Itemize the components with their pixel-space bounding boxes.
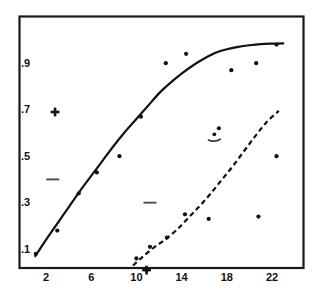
data-point	[254, 61, 258, 65]
data-point	[183, 212, 187, 216]
y-tick-label: .7	[21, 103, 30, 115]
data-point	[148, 245, 152, 249]
y-tick-label: .3	[21, 196, 30, 208]
chart-canvas: .1.3.5.7.9 2610141822	[0, 0, 321, 296]
x-tick-label: 6	[88, 271, 94, 283]
data-point	[139, 115, 143, 119]
scatter-plot-figure: .1.3.5.7.9 2610141822	[0, 0, 321, 296]
data-point	[34, 252, 38, 256]
data-point	[217, 126, 221, 130]
data-point	[184, 52, 188, 56]
data-point	[207, 217, 211, 221]
data-point	[77, 191, 81, 195]
x-tick-label: 18	[221, 271, 233, 283]
data-point	[117, 154, 121, 158]
data-point	[164, 61, 168, 65]
x-tick-label: 2	[43, 271, 49, 283]
y-tick-label: .9	[21, 57, 30, 69]
data-point	[274, 154, 278, 158]
data-point	[165, 235, 169, 239]
data-point	[274, 42, 278, 46]
y-tick-label: .1	[21, 243, 30, 255]
x-tick-label: 22	[266, 271, 278, 283]
y-tick-label: .5	[21, 150, 30, 162]
x-tick-label: 14	[175, 271, 188, 283]
data-point	[134, 256, 138, 260]
data-point	[229, 68, 233, 72]
data-point	[256, 215, 260, 219]
x-tick-label: 10	[130, 271, 142, 283]
data-point	[55, 228, 59, 232]
data-point	[95, 170, 99, 174]
